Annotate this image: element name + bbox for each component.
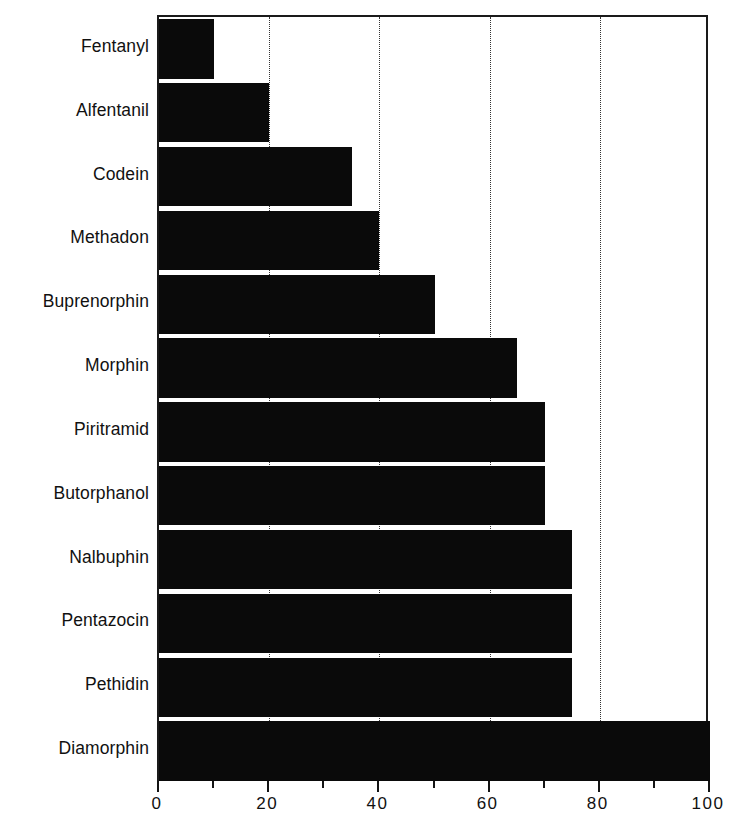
x-tick-label: 60 (477, 795, 499, 812)
category-label: Buprenorphin (0, 293, 149, 311)
x-tick-label: 80 (587, 795, 609, 812)
category-label: Alfentanil (0, 102, 149, 120)
category-label: Pentazocin (0, 612, 149, 630)
x-tick-label: 100 (692, 795, 725, 812)
bar (159, 530, 572, 589)
category-axis: FentanylAlfentanilCodeinMethadonBuprenor… (0, 15, 149, 781)
x-tick-minor (212, 781, 214, 788)
bar (159, 211, 379, 270)
x-tick-minor (543, 781, 545, 788)
x-tick-major (598, 781, 600, 792)
category-label: Butorphanol (0, 485, 149, 503)
bar (159, 721, 710, 780)
x-tick-major (157, 781, 159, 792)
bars-layer (159, 17, 706, 779)
x-tick-label: 0 (152, 795, 163, 812)
category-label: Morphin (0, 357, 149, 375)
category-label: Fentanyl (0, 38, 149, 56)
x-tick-label: 20 (256, 795, 278, 812)
bar (159, 19, 214, 78)
bar (159, 658, 572, 717)
category-label: Methadon (0, 229, 149, 247)
bar (159, 594, 572, 653)
x-tick-minor (433, 781, 435, 788)
x-tick-minor (653, 781, 655, 788)
bar (159, 338, 517, 397)
bar (159, 402, 545, 461)
bar (159, 83, 269, 142)
category-label: Diamorphin (0, 740, 149, 758)
x-tick-minor (322, 781, 324, 788)
category-label: Nalbuphin (0, 549, 149, 567)
x-tick-major (488, 781, 490, 792)
category-label: Codein (0, 166, 149, 184)
category-label: Piritramid (0, 421, 149, 439)
value-axis: 020406080100 (157, 781, 708, 837)
x-tick-major (708, 781, 710, 792)
x-tick-label: 40 (366, 795, 388, 812)
bar (159, 466, 545, 525)
x-tick-major (377, 781, 379, 792)
bar (159, 147, 352, 206)
x-tick-major (267, 781, 269, 792)
plot-area (157, 15, 708, 781)
bar-chart: FentanylAlfentanilCodeinMethadonBuprenor… (0, 0, 736, 837)
category-label: Pethidin (0, 676, 149, 694)
bar (159, 275, 435, 334)
